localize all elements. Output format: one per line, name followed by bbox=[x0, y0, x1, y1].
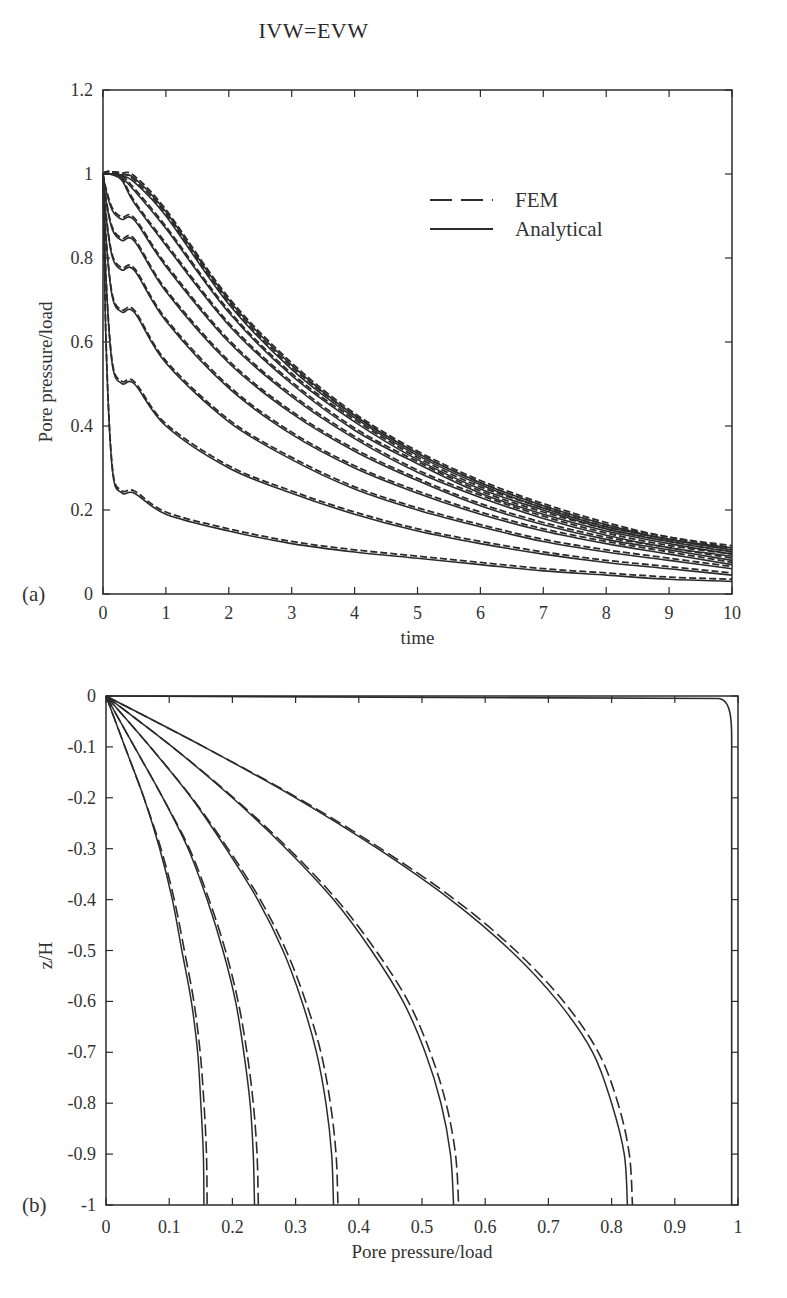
y-tick-label-b: -0.8 bbox=[68, 1093, 97, 1113]
analytical-curve bbox=[103, 174, 732, 581]
x-tick-label-b: 0.9 bbox=[664, 1217, 687, 1237]
analytical-curve bbox=[103, 174, 732, 552]
x-axis-label-a: time bbox=[401, 627, 435, 648]
analytical-curve bbox=[103, 174, 732, 554]
y-tick-label-b: -0.9 bbox=[68, 1144, 97, 1164]
x-tick-label-a: 5 bbox=[413, 603, 422, 623]
y-tick-label-a: 1 bbox=[84, 164, 93, 184]
x-axis-label-b: Pore pressure/load bbox=[352, 1241, 493, 1262]
analytical-curve bbox=[106, 696, 255, 1205]
legend-fem-label: FEM bbox=[515, 188, 559, 212]
analytical-curve bbox=[103, 174, 732, 575]
curves-a bbox=[103, 172, 732, 582]
y-tick-label-a: 0.8 bbox=[71, 248, 94, 268]
fem-curve bbox=[106, 696, 338, 1205]
y-tick-label-a: 0.4 bbox=[71, 416, 94, 436]
fem-curve bbox=[103, 172, 732, 546]
fem-curve bbox=[103, 172, 732, 552]
x-tick-label-b: 1 bbox=[734, 1217, 743, 1237]
panel-label-a: (a) bbox=[22, 582, 45, 606]
y-tick-label-b: -0.3 bbox=[68, 839, 97, 859]
fem-curve bbox=[103, 174, 732, 558]
x-tick-label-b: 0.4 bbox=[348, 1217, 371, 1237]
analytical-curve bbox=[106, 696, 204, 1205]
x-tick-label-b: 0.1 bbox=[158, 1217, 181, 1237]
y-tick-label-a: 0.6 bbox=[71, 332, 94, 352]
y-tick-label-b: -0.1 bbox=[68, 737, 97, 757]
analytical-curve bbox=[103, 174, 732, 569]
fem-curve bbox=[103, 174, 732, 567]
fem-curve bbox=[103, 174, 732, 573]
y-tick-label-b: -0.2 bbox=[68, 788, 97, 808]
x-tick-label-b: 0 bbox=[102, 1217, 111, 1237]
x-tick-label-a: 6 bbox=[476, 603, 485, 623]
plot-frame-b bbox=[106, 696, 738, 1205]
y-tick-label-b: -0.6 bbox=[68, 991, 97, 1011]
analytical-curve bbox=[103, 174, 732, 560]
y-tick-label-a: 0.2 bbox=[71, 500, 94, 520]
legend: FEMAnalytical bbox=[430, 188, 603, 241]
x-tick-label-a: 3 bbox=[287, 603, 296, 623]
x-tick-label-b: 0.6 bbox=[474, 1217, 497, 1237]
x-tick-label-b: 0.7 bbox=[537, 1217, 560, 1237]
x-tick-label-a: 4 bbox=[350, 603, 359, 623]
x-tick-label-a: 0 bbox=[99, 603, 108, 623]
x-tick-label-b: 0.5 bbox=[411, 1217, 434, 1237]
y-tick-label-b: -0.7 bbox=[68, 1042, 97, 1062]
caption-fragment bbox=[0, 1284, 787, 1298]
y-axis-label-a: Pore pressure/load bbox=[35, 301, 56, 442]
y-tick-label-b: 0 bbox=[87, 686, 96, 706]
x-tick-label-a: 7 bbox=[539, 603, 548, 623]
analytical-curve bbox=[106, 696, 334, 1205]
x-tick-label-a: 10 bbox=[723, 603, 741, 623]
y-tick-label-b: -1 bbox=[81, 1195, 96, 1215]
y-tick-label-a: 1.2 bbox=[71, 80, 94, 100]
y-axis-label-b: z/H bbox=[35, 942, 56, 970]
panel-label-b: (b) bbox=[22, 1193, 47, 1217]
analytical-curve bbox=[106, 696, 732, 1205]
fem-curve bbox=[103, 174, 732, 579]
fem-curve bbox=[103, 174, 732, 562]
legend-analytical-label: Analytical bbox=[515, 217, 603, 241]
chart-panel-b: 00.10.20.30.40.50.60.70.80.910-0.1-0.2-0… bbox=[22, 686, 743, 1262]
x-tick-label-a: 2 bbox=[224, 603, 233, 623]
analytical-curve bbox=[103, 174, 732, 556]
chart-panel-a: 01234567891000.20.40.60.811.2timePore pr… bbox=[22, 80, 741, 648]
x-tick-label-a: 9 bbox=[665, 603, 674, 623]
curves-b bbox=[106, 696, 732, 1205]
y-tick-label-b: -0.4 bbox=[68, 890, 97, 910]
y-tick-label-a: 0 bbox=[84, 584, 93, 604]
x-tick-label-b: 0.2 bbox=[221, 1217, 244, 1237]
x-tick-label-a: 1 bbox=[161, 603, 170, 623]
figure-canvas: 01234567891000.20.40.60.811.2timePore pr… bbox=[0, 0, 787, 1298]
fem-curve bbox=[103, 174, 732, 554]
analytical-curve bbox=[103, 174, 732, 565]
fem-curve bbox=[106, 696, 207, 1205]
analytical-curve bbox=[106, 696, 454, 1205]
y-tick-label-b: -0.5 bbox=[68, 941, 97, 961]
x-tick-label-b: 0.8 bbox=[600, 1217, 623, 1237]
x-tick-label-b: 0.3 bbox=[284, 1217, 307, 1237]
x-tick-label-a: 8 bbox=[602, 603, 611, 623]
plot-frame-a bbox=[103, 90, 732, 594]
